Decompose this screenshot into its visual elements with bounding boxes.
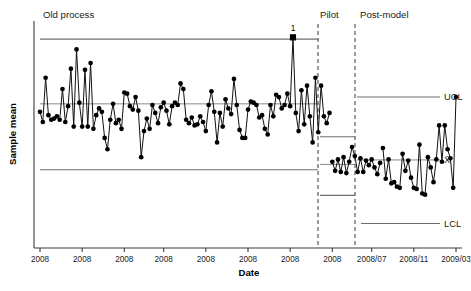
data-point [254, 103, 259, 108]
data-point [175, 103, 180, 108]
data-point [147, 126, 152, 131]
x-axis-tick-label: 2008 [197, 255, 216, 264]
control-chart: 200820082008200820082008200820082008/072… [0, 0, 471, 291]
data-point [215, 140, 220, 145]
data-point [212, 109, 217, 114]
x-axis-tick-label: 2008 [73, 255, 92, 264]
data-point [161, 100, 166, 105]
data-point [375, 172, 380, 177]
data-point [80, 124, 85, 129]
data-point [265, 132, 270, 137]
data-point [102, 136, 107, 141]
data-point [364, 158, 369, 163]
data-point [434, 157, 439, 162]
x-axis-tick-label: 2008 [239, 255, 258, 264]
data-point [319, 83, 324, 88]
data-point [347, 159, 352, 164]
data-point [324, 121, 329, 126]
x-axis-tick-label: 2008 [155, 255, 174, 264]
data-point [125, 91, 130, 96]
data-point [189, 115, 194, 120]
data-point [313, 75, 318, 80]
data-point [322, 114, 327, 119]
data-point [369, 157, 374, 162]
data-point [206, 103, 211, 108]
data-point [293, 111, 298, 116]
data-point [260, 113, 265, 118]
data-point [153, 111, 158, 116]
data-point [218, 111, 223, 116]
data-point [234, 103, 239, 108]
data-point [77, 100, 82, 105]
data-point [150, 103, 155, 108]
data-point [195, 122, 200, 127]
data-point [409, 175, 414, 180]
data-point-violation [290, 34, 296, 40]
data-point [341, 155, 346, 160]
data-point [178, 81, 183, 86]
data-point [406, 158, 411, 163]
data-point [105, 147, 110, 152]
data-point [378, 161, 383, 166]
data-point [91, 126, 96, 131]
data-point [288, 104, 293, 109]
data-point [372, 165, 377, 170]
data-point [336, 157, 341, 162]
data-point [43, 75, 48, 80]
data-point [445, 147, 450, 152]
data-point [119, 126, 124, 131]
center-label: X̄ [444, 154, 451, 165]
x-axis-tick-label: 2008 [31, 255, 50, 264]
data-point [99, 109, 104, 114]
data-point [223, 97, 228, 102]
data-point [232, 77, 237, 82]
data-point [307, 114, 312, 119]
data-point [229, 112, 234, 117]
data-point [277, 95, 282, 100]
data-point [392, 180, 397, 185]
control-chart-svg: 200820082008200820082008200820082008/072… [0, 0, 471, 291]
phase-labels: Old processPilotPost-model [43, 9, 409, 20]
data-point [302, 122, 307, 127]
limit-labels: UCLX̄LCL [444, 91, 463, 228]
data-point [414, 187, 419, 192]
data-point [187, 121, 192, 126]
data-point [296, 129, 301, 134]
ucl-label: UCL [444, 91, 463, 102]
data-point [397, 185, 402, 190]
data-point [111, 102, 116, 107]
data-point [338, 170, 343, 175]
data-point [237, 128, 242, 133]
data-point [156, 121, 161, 126]
x-axis-tick-label: 2008 [323, 255, 342, 264]
data-point [209, 89, 214, 94]
data-point [333, 168, 338, 173]
x-axis-tick-label: 2008/11 [399, 255, 428, 264]
data-point [355, 170, 360, 175]
data-point [66, 104, 71, 109]
data-point [243, 136, 248, 141]
data-point [130, 107, 135, 112]
axes-group: 200820082008200820082008200820082008/072… [31, 21, 471, 264]
data-point [198, 114, 203, 119]
data-point [88, 61, 93, 66]
data-point [352, 154, 357, 159]
data-point [451, 185, 456, 190]
data-point [437, 123, 442, 128]
phase-label-1: Old process [43, 9, 94, 20]
x-axis-tick-label: 2008 [281, 255, 300, 264]
data-point [220, 124, 225, 129]
data-point [201, 120, 206, 125]
x-axis-title: Date [239, 267, 260, 278]
x-axis-tick-label: 2009/03 [441, 255, 471, 264]
x-axis-tick-label: 2008 [115, 255, 134, 264]
data-point [139, 155, 144, 160]
data-point [423, 192, 428, 197]
data-point [116, 117, 121, 122]
data-point [400, 151, 405, 156]
data-point [361, 170, 366, 175]
data-point [181, 87, 186, 92]
x-axis-ticks: 200820082008200820082008200820082008/072… [31, 248, 471, 264]
data-point [310, 140, 315, 145]
data-point [203, 129, 208, 134]
